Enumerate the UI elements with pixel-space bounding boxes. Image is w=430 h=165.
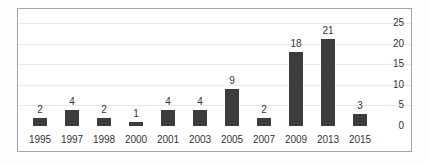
bar-value-label: 2 (25, 104, 55, 116)
bar-value-label: 4 (153, 96, 183, 108)
bar-value-label: 2 (249, 104, 279, 116)
y-tick-label: 25 (378, 17, 404, 29)
bar (257, 118, 271, 126)
bar-chart: 2421449218213 19951997199820002001200320… (0, 0, 430, 165)
bar-value-label: 3 (345, 100, 375, 112)
x-tick-label: 1997 (54, 134, 90, 146)
x-tick-label: 2003 (182, 134, 218, 146)
x-tick-label: 2015 (342, 134, 378, 146)
x-tick-label: 2001 (150, 134, 186, 146)
bar-value-label: 1 (121, 108, 151, 120)
bar-value-label: 9 (217, 75, 247, 87)
bar (65, 110, 79, 126)
y-tick-label: 0 (378, 120, 404, 132)
x-tick-label: 2005 (214, 134, 250, 146)
bar (225, 89, 239, 126)
x-tick-label: 2007 (246, 134, 282, 146)
gridline (18, 44, 411, 45)
y-tick-label: 20 (378, 38, 404, 50)
bar (353, 114, 367, 126)
bar (129, 122, 143, 126)
x-tick-label: 1998 (86, 134, 122, 146)
gridline (18, 85, 411, 86)
y-tick-label: 5 (378, 99, 404, 111)
x-tick-label: 2000 (118, 134, 154, 146)
bar-value-label: 21 (313, 25, 343, 37)
y-tick-label: 10 (378, 79, 404, 91)
bar (97, 118, 111, 126)
gridline (18, 23, 411, 24)
bar-value-label: 18 (281, 38, 311, 50)
bar-value-label: 4 (57, 96, 87, 108)
bar (161, 110, 175, 126)
x-tick-label: 2013 (310, 134, 346, 146)
x-tick-label: 1995 (22, 134, 58, 146)
bar-value-label: 2 (89, 104, 119, 116)
y-tick-label: 15 (378, 58, 404, 70)
bar (321, 39, 335, 126)
bar (193, 110, 207, 126)
bar (33, 118, 47, 126)
chart-frame: 2421449218213 19951997199820002001200320… (17, 8, 412, 152)
x-tick-label: 2009 (278, 134, 314, 146)
plot-area: 2421449218213 19951997199820002001200320… (18, 9, 411, 151)
bar-value-label: 4 (185, 96, 215, 108)
gridline (18, 64, 411, 65)
bar (289, 52, 303, 126)
